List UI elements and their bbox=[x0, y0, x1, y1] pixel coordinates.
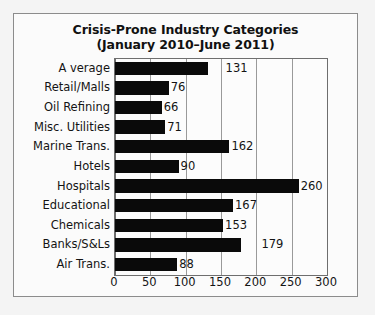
bar-value-label: 153 bbox=[225, 220, 247, 232]
bar-value-label: 260 bbox=[301, 181, 323, 193]
bar bbox=[115, 160, 179, 173]
plot-area: A verage131Retail/Malls76Oil Refining66M… bbox=[114, 58, 328, 276]
bar-row: Hotels90 bbox=[115, 157, 327, 177]
category-label: Chemicals bbox=[51, 220, 110, 232]
chart-figure: Crisis-Prone Industry Categories (Januar… bbox=[13, 13, 358, 297]
bar-value-label: 179 bbox=[261, 240, 283, 252]
category-label: Marine Trans. bbox=[33, 142, 110, 154]
gridline-300 bbox=[327, 59, 328, 275]
bar-value-label: 71 bbox=[167, 122, 182, 134]
bar bbox=[115, 258, 177, 271]
bar-row: Hospitals260 bbox=[115, 177, 327, 197]
bar-value-label: 162 bbox=[231, 142, 253, 154]
bar-row: Retail/Malls76 bbox=[115, 79, 327, 99]
category-label: Oil Refining bbox=[44, 102, 110, 114]
x-tick-50: 50 bbox=[142, 277, 157, 289]
category-label: Banks/S&Ls bbox=[43, 240, 110, 252]
x-axis-tick-labels: 050100150200250300 bbox=[114, 277, 326, 293]
bar-value-label: 131 bbox=[226, 63, 248, 75]
x-tick-0: 0 bbox=[110, 277, 117, 289]
chart-title: Crisis-Prone Industry Categories bbox=[14, 22, 357, 37]
bar-rows: A verage131Retail/Malls76Oil Refining66M… bbox=[115, 59, 327, 275]
category-label: Misc. Utilities bbox=[34, 122, 110, 134]
bar bbox=[115, 238, 241, 251]
bar bbox=[115, 62, 208, 75]
x-tick-300: 300 bbox=[315, 277, 337, 289]
x-tick-150: 150 bbox=[209, 277, 231, 289]
bar bbox=[115, 199, 233, 212]
bar bbox=[115, 120, 165, 133]
x-tick-100: 100 bbox=[174, 277, 196, 289]
bar bbox=[115, 179, 299, 192]
bar-value-label: 90 bbox=[181, 161, 196, 173]
bar-row: Air Trans.88 bbox=[115, 255, 327, 275]
chart-subtitle: (January 2010–June 2011) bbox=[14, 37, 357, 52]
bar-row: Chemicals153 bbox=[115, 216, 327, 236]
bar-value-label: 76 bbox=[171, 83, 186, 95]
category-label: Air Trans. bbox=[57, 259, 111, 271]
category-label: Hotels bbox=[74, 161, 110, 173]
bar bbox=[115, 101, 162, 114]
bar-row: A verage131 bbox=[115, 59, 327, 79]
bar-value-label: 88 bbox=[179, 259, 194, 271]
x-tick-250: 250 bbox=[280, 277, 302, 289]
bar bbox=[115, 219, 223, 232]
category-label: Hospitals bbox=[57, 181, 110, 193]
bar bbox=[115, 140, 229, 153]
chart-title-block: Crisis-Prone Industry Categories (Januar… bbox=[14, 22, 357, 52]
category-label: Educational bbox=[43, 200, 111, 212]
x-tick-200: 200 bbox=[244, 277, 266, 289]
bar-row: Marine Trans.162 bbox=[115, 138, 327, 158]
category-label: A verage bbox=[58, 63, 110, 75]
category-label: Retail/Malls bbox=[44, 83, 110, 95]
bar-row: Banks/S&Ls179 bbox=[115, 236, 327, 256]
bar-value-label: 66 bbox=[164, 102, 179, 114]
bar-value-label: 167 bbox=[235, 200, 257, 212]
bar-row: Oil Refining66 bbox=[115, 98, 327, 118]
bar bbox=[115, 81, 169, 94]
bar-row: Misc. Utilities71 bbox=[115, 118, 327, 138]
bar-row: Educational167 bbox=[115, 196, 327, 216]
